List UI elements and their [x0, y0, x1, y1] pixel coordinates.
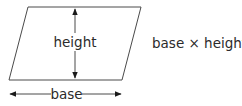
height-label: height	[53, 34, 96, 50]
base-label: base	[50, 86, 82, 102]
area-formula: base × height	[152, 34, 242, 52]
parallelogram-diagram: height base	[0, 0, 150, 106]
